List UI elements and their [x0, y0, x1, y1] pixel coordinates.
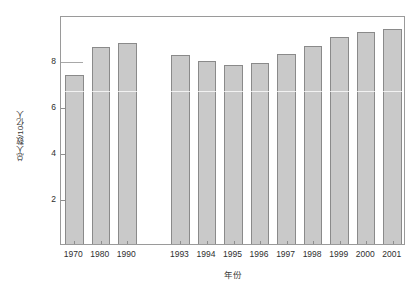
- x-tick-mark: [207, 241, 208, 244]
- x-tick-mark: [260, 241, 261, 244]
- bar: [171, 55, 190, 244]
- x-tick-mark: [340, 241, 341, 244]
- bar: [277, 54, 296, 244]
- x-tick-mark: [234, 241, 235, 244]
- x-tick-mark: [74, 241, 75, 244]
- y-axis-title: 总人数/10亿人: [14, 60, 28, 210]
- bar: [92, 47, 111, 244]
- y-tick-mark: [61, 62, 83, 63]
- x-tick-mark: [393, 241, 394, 244]
- x-tick-mark: [313, 241, 314, 244]
- x-axis-title: 年份: [60, 268, 405, 280]
- bar: [65, 75, 84, 244]
- x-tick-mark: [101, 241, 102, 244]
- bar: [251, 63, 270, 244]
- bar: [198, 61, 217, 244]
- bar: [383, 29, 402, 244]
- y-tick-label: 6: [38, 102, 56, 112]
- plot-area: [60, 16, 405, 245]
- bar-chart-figure: 总人数/10亿人 2468 19701980199019931994199519…: [0, 0, 419, 295]
- raster-streak: [61, 91, 404, 92]
- y-axis-tick-labels: 2468: [36, 0, 56, 295]
- x-tick-mark: [287, 241, 288, 244]
- x-tick-mark: [127, 241, 128, 244]
- y-tick-label: 2: [38, 194, 56, 204]
- x-tick-label: 1990: [109, 249, 143, 259]
- y-tick-label: 8: [38, 56, 56, 66]
- plot-inner: [61, 17, 404, 244]
- bar: [357, 32, 376, 244]
- y-tick-label: 4: [38, 148, 56, 158]
- x-tick-mark: [366, 241, 367, 244]
- bar: [118, 43, 137, 244]
- x-tick-label: 2001: [375, 249, 409, 259]
- bar: [330, 37, 349, 244]
- bar: [304, 46, 323, 244]
- x-tick-mark: [180, 241, 181, 244]
- x-axis-tick-labels: 1970198019901993199419951996199719981999…: [60, 249, 405, 263]
